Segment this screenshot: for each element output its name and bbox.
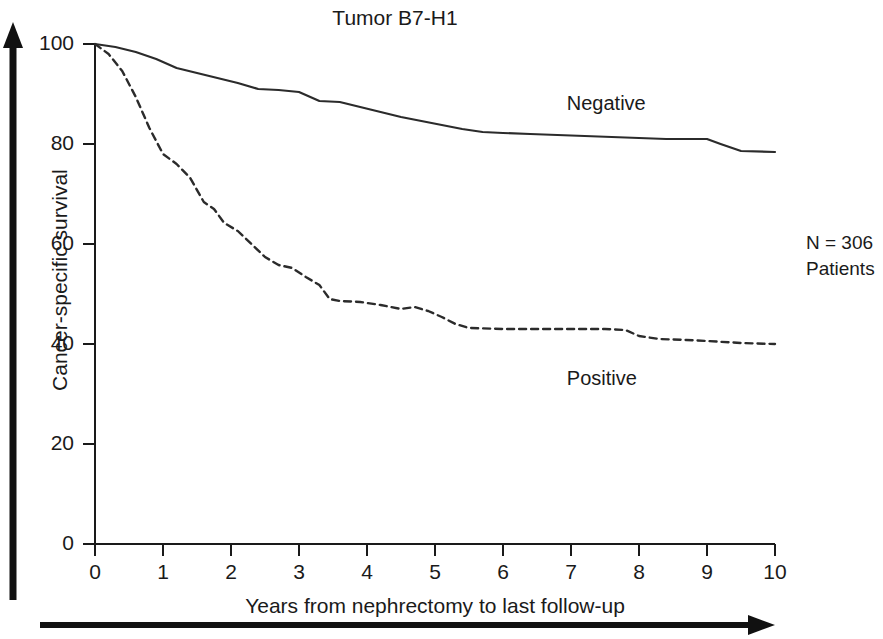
x-tick-label: 2: [211, 560, 251, 584]
y-tick-label: 40: [14, 331, 74, 355]
kaplan-meier-plot: [0, 0, 883, 639]
chart-page: Tumor B7-H1 Cancer-specific survival Yea…: [0, 0, 883, 639]
x-tick-label: 6: [483, 560, 523, 584]
y-tick-label: 80: [14, 131, 74, 155]
plot-axes: [83, 44, 775, 556]
y-tick-label: 100: [14, 31, 74, 55]
y-tick-label: 60: [14, 231, 74, 255]
x-tick-label: 8: [619, 560, 659, 584]
x-tick-label: 1: [143, 560, 183, 584]
x-tick-label: 3: [279, 560, 319, 584]
annotation-patients-word: Patients: [806, 258, 875, 280]
chart-title: Tumor B7-H1: [0, 6, 790, 30]
series-label-positive: Positive: [567, 367, 637, 390]
curve-positive: [95, 44, 775, 344]
x-tick-label: 7: [551, 560, 591, 584]
y-tick-label: 20: [14, 431, 74, 455]
survival-curves: [95, 44, 775, 344]
curve-negative: [95, 44, 775, 152]
y-tick-label: 0: [14, 531, 74, 555]
y-axis-label: Cancer-specific survival: [48, 120, 72, 440]
vertical-axis-arrow: [3, 22, 23, 600]
x-tick-label: 9: [687, 560, 727, 584]
annotation-patient-count: N = 306: [806, 232, 873, 254]
x-axis-label: Years from nephrectomy to last follow-up: [95, 594, 775, 618]
x-tick-label: 5: [415, 560, 455, 584]
x-tick-label: 4: [347, 560, 387, 584]
x-tick-label: 0: [75, 560, 115, 584]
series-label-negative: Negative: [567, 92, 646, 115]
x-tick-label: 10: [755, 560, 795, 584]
